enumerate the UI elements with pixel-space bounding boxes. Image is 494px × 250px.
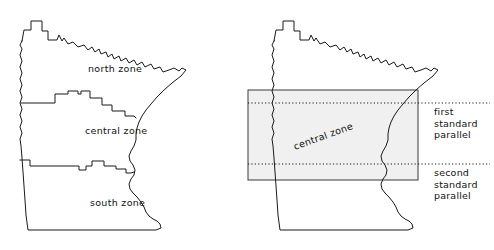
zone-label-central: central zone: [85, 125, 147, 136]
maps-canvas: north zone central zone south zone centr…: [0, 0, 494, 250]
zone-label-south: south zone: [90, 197, 145, 208]
figure-minnesota-zones: north zone central zone south zone centr…: [0, 0, 494, 250]
second-standard-parallel-label: second standard parallel: [434, 167, 478, 202]
zone-label-north: north zone: [88, 63, 142, 74]
first-standard-parallel-label: first standard parallel: [434, 106, 478, 141]
left-map-group: north zone central zone south zone: [20, 21, 186, 230]
